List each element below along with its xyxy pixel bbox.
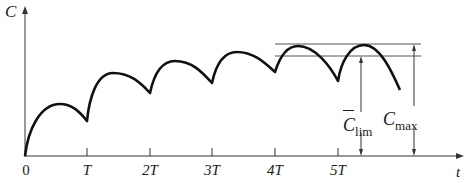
tick-label-3T: 3T bbox=[204, 162, 220, 179]
c-max-label: Cmax bbox=[383, 109, 417, 130]
tick-label-5T: 5T bbox=[330, 162, 346, 179]
c-max-dimension-arrow bbox=[412, 44, 416, 156]
y-axis-label: C bbox=[5, 2, 16, 22]
tick-label-4T: 4T bbox=[267, 162, 283, 179]
concentration-curve bbox=[25, 45, 400, 156]
x-axis-label: t bbox=[456, 164, 460, 181]
c-lim-dimension-arrow bbox=[359, 56, 363, 156]
diagram-canvas bbox=[0, 0, 467, 183]
overbar bbox=[343, 110, 354, 111]
x-axis-arrow-icon bbox=[456, 153, 464, 159]
c-lim-label: C lim bbox=[343, 115, 372, 136]
y-axis-arrow-icon bbox=[22, 6, 28, 14]
tick-label-T: T bbox=[83, 162, 91, 179]
tick-label-0: 0 bbox=[22, 162, 30, 179]
x-axis-ticks bbox=[87, 148, 338, 156]
tick-label-2T: 2T bbox=[142, 162, 158, 179]
